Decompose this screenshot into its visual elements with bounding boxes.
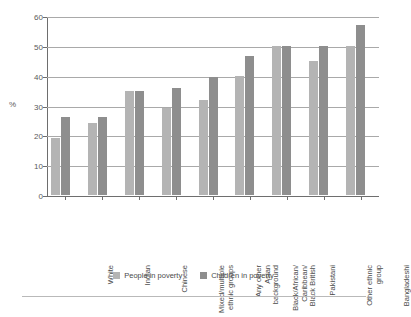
bar — [209, 77, 218, 195]
y-axis-tick-label: 20 — [34, 132, 43, 141]
bar — [51, 138, 60, 195]
bar — [282, 46, 291, 195]
y-axis-tick-label: 40 — [34, 72, 43, 81]
bar-group — [47, 16, 84, 195]
bar — [61, 117, 70, 195]
legend-item: People in poverty — [113, 271, 182, 280]
x-axis-tick-mark — [324, 196, 325, 200]
y-axis-tick-label: 60 — [34, 13, 43, 22]
y-axis-tick-label: 30 — [34, 102, 43, 111]
bar — [235, 76, 244, 195]
bar — [245, 56, 254, 195]
bar — [162, 108, 171, 195]
bar — [172, 88, 181, 195]
bar — [135, 91, 144, 195]
bar-group — [305, 16, 342, 195]
legend-item: Children in poverty — [200, 271, 274, 280]
x-axis-tick-mark — [65, 196, 66, 200]
y-axis-tick-label: 10 — [34, 162, 43, 171]
bar — [125, 91, 134, 195]
bar — [272, 46, 281, 195]
legend-label: Children in poverty — [211, 271, 274, 280]
footer-divider — [22, 296, 366, 297]
x-axis-tick-mark — [176, 196, 177, 200]
bar — [88, 123, 97, 195]
legend-swatch-icon — [113, 272, 120, 279]
bar-group — [195, 16, 232, 195]
x-axis-tick-mark — [361, 196, 362, 200]
x-axis-tick-mark — [102, 196, 103, 200]
bar-group — [342, 16, 379, 195]
bar-group — [158, 16, 195, 195]
bar — [346, 46, 355, 195]
bar — [319, 46, 328, 195]
bar — [98, 117, 107, 195]
y-axis-tick-mark — [43, 196, 47, 197]
legend-label: People in poverty — [124, 271, 182, 280]
plot-area: 0102030405060 — [47, 17, 379, 196]
bar-group — [84, 16, 121, 195]
bar — [309, 61, 318, 195]
bar-group — [121, 16, 158, 195]
x-axis-tick-mark — [139, 196, 140, 200]
legend-swatch-icon — [200, 272, 207, 279]
chart-legend: People in povertyChildren in poverty — [0, 271, 387, 280]
bar-group — [231, 16, 268, 195]
x-axis-tick-mark — [250, 196, 251, 200]
bar — [356, 25, 365, 195]
x-axis-tick-mark — [287, 196, 288, 200]
bar — [199, 100, 208, 195]
bar-group — [268, 16, 305, 195]
y-axis-title: % — [9, 100, 16, 109]
x-axis-category-label: Bangladeshi — [403, 265, 411, 317]
x-axis-tick-mark — [213, 196, 214, 200]
y-axis-tick-label: 50 — [34, 42, 43, 51]
